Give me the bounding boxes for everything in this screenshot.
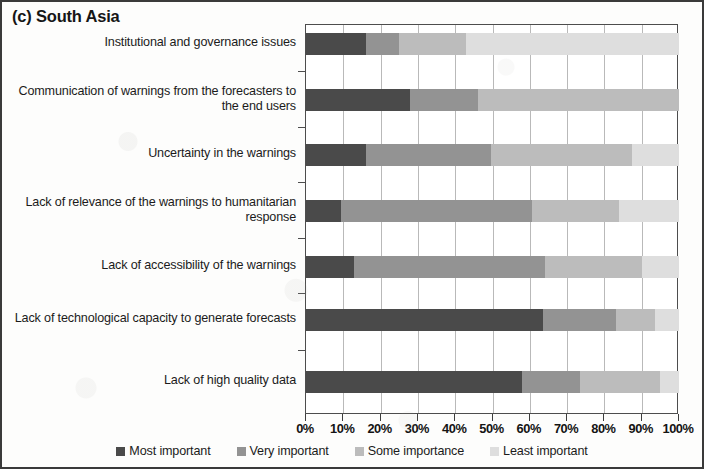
x-axis-tick xyxy=(305,414,306,421)
x-axis-tick-label: 70% xyxy=(554,421,578,436)
bar-segment xyxy=(545,256,642,278)
bar-segment xyxy=(306,89,410,111)
x-axis-tick-label: 50% xyxy=(479,421,503,436)
y-axis-tick xyxy=(298,238,305,239)
x-axis-tick xyxy=(529,414,530,421)
bar-segment xyxy=(655,309,679,331)
bar-row xyxy=(306,256,677,278)
x-axis-tick-label: 20% xyxy=(367,421,391,436)
y-axis-tick xyxy=(298,127,305,128)
x-axis-tick xyxy=(603,414,604,421)
category-axis-labels: Institutional and governance issuesCommu… xyxy=(8,24,300,414)
chart-figure: (c) South Asia Institutional and governa… xyxy=(0,0,704,469)
legend-item[interactable]: Most important xyxy=(116,444,210,458)
bar-segment xyxy=(410,89,477,111)
category-label: Lack of relevance of the warnings to hum… xyxy=(10,195,296,226)
bar-row xyxy=(306,89,677,111)
bar-segment xyxy=(616,309,655,331)
category-label: Lack of high quality data xyxy=(10,373,296,389)
bar-row xyxy=(306,200,677,222)
category-label: Communication of warnings from the forec… xyxy=(10,84,296,115)
legend-label: Some importance xyxy=(368,444,464,458)
x-axis-tick xyxy=(641,414,642,421)
x-axis-tick-label: 40% xyxy=(442,421,466,436)
bar-segment xyxy=(399,33,466,55)
category-label: Lack of accessibility of the warnings xyxy=(10,258,296,274)
bar-row xyxy=(306,33,677,55)
bar-segment xyxy=(532,200,620,222)
x-axis-tick xyxy=(342,414,343,421)
legend-label: Very important xyxy=(250,444,329,458)
x-axis-tick-label: 10% xyxy=(330,421,354,436)
plot-area xyxy=(305,24,678,414)
bar-segment xyxy=(306,371,522,393)
bar-segment xyxy=(306,256,354,278)
x-axis-tick xyxy=(454,414,455,421)
category-label: Institutional and governance issues xyxy=(10,35,296,51)
x-axis-tick-label: 0% xyxy=(296,421,314,436)
legend-item[interactable]: Very important xyxy=(237,444,329,458)
bar-segment xyxy=(354,256,544,278)
category-label: Uncertainty in the warnings xyxy=(10,146,296,162)
x-axis-tick xyxy=(417,414,418,421)
legend-swatch-icon xyxy=(355,447,364,456)
bar-row xyxy=(306,144,677,166)
bar-segment xyxy=(580,371,660,393)
bar-segment xyxy=(366,33,400,55)
x-axis-tick xyxy=(566,414,567,421)
bar-segment xyxy=(642,256,679,278)
bar-segment xyxy=(466,33,679,55)
bar-segment xyxy=(306,309,543,331)
bar-segment xyxy=(306,144,366,166)
bar-row xyxy=(306,309,677,331)
bar-series-container xyxy=(306,25,677,413)
x-axis-tick-label: 90% xyxy=(628,421,652,436)
bar-segment xyxy=(341,200,531,222)
x-axis-tick-label: 100% xyxy=(662,421,693,436)
bar-segment xyxy=(543,309,616,331)
y-axis-tick xyxy=(298,182,305,183)
bar-segment xyxy=(660,371,679,393)
y-axis-tick xyxy=(298,350,305,351)
legend-swatch-icon xyxy=(490,447,499,456)
legend-label: Least important xyxy=(503,444,588,458)
x-axis-tick xyxy=(678,414,679,421)
y-axis-tick xyxy=(298,293,305,294)
x-axis-tick-label: 30% xyxy=(405,421,429,436)
bar-segment xyxy=(478,89,679,111)
x-axis-tick-label: 60% xyxy=(517,421,541,436)
legend-item[interactable]: Least important xyxy=(490,444,588,458)
legend-item[interactable]: Some importance xyxy=(355,444,464,458)
bar-row xyxy=(306,371,677,393)
category-label: Lack of technological capacity to genera… xyxy=(10,311,296,327)
bar-segment xyxy=(522,371,580,393)
bar-segment xyxy=(306,200,341,222)
chart-legend: Most importantVery importantSome importa… xyxy=(2,439,702,463)
x-axis-tick xyxy=(492,414,493,421)
bar-segment xyxy=(491,144,633,166)
y-axis-tick xyxy=(298,71,305,72)
legend-label: Most important xyxy=(129,444,210,458)
bar-segment xyxy=(366,144,491,166)
bar-segment xyxy=(306,33,366,55)
x-axis-tick-label: 80% xyxy=(591,421,615,436)
legend-swatch-icon xyxy=(237,447,246,456)
bar-segment xyxy=(632,144,679,166)
legend-swatch-icon xyxy=(116,447,125,456)
bar-segment xyxy=(619,200,679,222)
x-axis-tick xyxy=(380,414,381,421)
